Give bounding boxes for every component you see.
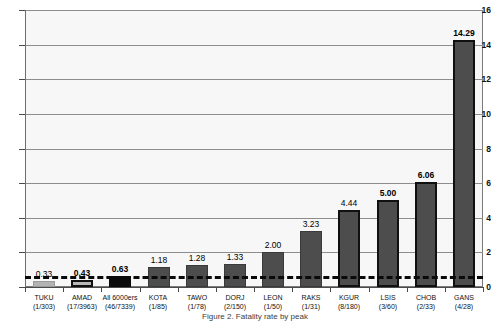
category-sublabel: (1/85) [139, 302, 177, 311]
category-label: CHOB(2/33) [407, 293, 445, 311]
category-sublabel: (1/78) [178, 302, 216, 311]
y-axis-tick [19, 252, 25, 253]
bar-chart: 0246810121416 0.330.430.631.181.281.332.… [0, 0, 491, 323]
gridline [25, 79, 483, 80]
bar-value-label: 1.18 [139, 256, 179, 265]
category-sublabel: (46/7339) [101, 302, 139, 311]
category-name: TAWO [178, 293, 216, 302]
bar-value-label: 0.43 [62, 269, 102, 278]
bar-value-label: 3.23 [291, 220, 331, 229]
y-axis-tick [19, 149, 25, 150]
y-axis-tick [19, 183, 25, 184]
category-name: DORJ [216, 293, 254, 302]
y-axis-label: 4 [474, 214, 491, 223]
y-axis-label: 12 [474, 75, 491, 84]
x-axis-tick [330, 288, 331, 292]
category-label: LEON(1/50) [254, 293, 292, 311]
category-sublabel: (1/303) [25, 302, 63, 311]
bar-value-label: 4.44 [329, 199, 369, 208]
gridline [25, 45, 483, 46]
bar-value-label: 2.00 [253, 241, 293, 250]
y-axis-tick [19, 218, 25, 219]
x-axis-tick [483, 288, 484, 292]
x-axis-tick [445, 288, 446, 292]
category-label: GANS(4/28) [445, 293, 483, 311]
category-name: GANS [445, 293, 483, 302]
x-axis-tick [216, 288, 217, 292]
bar-amad [71, 280, 93, 287]
category-label: AMAD(17/3963) [63, 293, 101, 311]
bar-value-label: 5.00 [368, 189, 408, 198]
figure-caption: Figure 2. Fatality rate by peak [55, 312, 455, 323]
category-sublabel: (4/28) [445, 302, 483, 311]
category-label: RAKS(1/31) [292, 293, 330, 311]
gridline [25, 114, 483, 115]
category-sublabel: (17/3963) [63, 302, 101, 311]
y-axis-tick [19, 10, 25, 11]
gridline [25, 149, 483, 150]
category-label: TAWO(1/78) [178, 293, 216, 311]
bar-value-label: 6.06 [406, 171, 446, 180]
x-axis-tick [63, 288, 64, 292]
bar-lsis [377, 200, 399, 287]
category-sublabel: (2/33) [407, 302, 445, 311]
category-name: All 6000ers [101, 293, 139, 302]
gridline [25, 10, 483, 11]
bar-value-label: 14.29 [444, 29, 484, 38]
y-axis-tick [19, 45, 25, 46]
category-name: LSIS [369, 293, 407, 302]
y-axis-tick [19, 114, 25, 115]
x-axis-tick [25, 288, 26, 292]
x-axis-tick [178, 288, 179, 292]
x-axis-tick [254, 288, 255, 292]
category-label: TUKU(1/303) [25, 293, 63, 311]
y-axis-label: 14 [474, 41, 491, 50]
category-name: KOTA [139, 293, 177, 302]
category-sublabel: (1/31) [292, 302, 330, 311]
x-axis-tick [101, 288, 102, 292]
category-name: CHOB [407, 293, 445, 302]
bar-gans [453, 40, 475, 287]
bar-value-label: 1.33 [215, 253, 255, 262]
category-label: KGUR(8/180) [330, 293, 368, 311]
y-axis-label: 8 [474, 145, 491, 154]
bar-leon [262, 252, 284, 287]
category-name: TUKU [25, 293, 63, 302]
category-sublabel: (1/50) [254, 302, 292, 311]
bar-tuku [33, 281, 55, 287]
bar-chob [415, 182, 437, 287]
x-axis-tick [140, 288, 141, 292]
x-axis-tick [369, 288, 370, 292]
x-axis-tick [407, 288, 408, 292]
category-label: DORJ(2/150) [216, 293, 254, 311]
category-name: LEON [254, 293, 292, 302]
y-axis-line [25, 10, 26, 288]
y-axis-label: 6 [474, 179, 491, 188]
category-label: KOTA(1/85) [139, 293, 177, 311]
category-label: LSIS(3/60) [369, 293, 407, 311]
bar-value-label: 1.28 [177, 254, 217, 263]
category-name: KGUR [330, 293, 368, 302]
category-sublabel: (8/180) [330, 302, 368, 311]
bar-value-label: 0.63 [100, 265, 140, 274]
category-name: RAKS [292, 293, 330, 302]
y-axis-label: 2 [474, 248, 491, 257]
category-sublabel: (3/60) [369, 302, 407, 311]
category-name: AMAD [63, 293, 101, 302]
bar-value-label: 0.33 [24, 270, 64, 279]
y-axis-tick [19, 79, 25, 80]
category-label: All 6000ers(46/7339) [101, 293, 139, 311]
y-axis-label: 10 [474, 110, 491, 119]
category-sublabel: (2/150) [216, 302, 254, 311]
x-axis-tick [292, 288, 293, 292]
y-axis-label: 16 [474, 6, 491, 15]
